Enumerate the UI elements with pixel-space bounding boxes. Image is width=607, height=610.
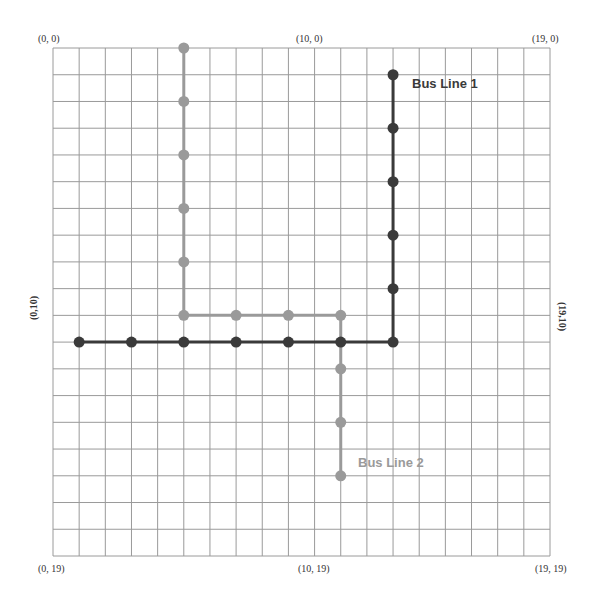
bus-stop-icon [335,470,346,481]
grid-lines [53,48,550,556]
bus-stop-icon [231,310,242,321]
bus-stop-icon [178,310,189,321]
bus-stop-icon [126,337,137,348]
bus-stop-icon [388,230,399,241]
bus-stop-icon [388,337,399,348]
bus-route-diagram: (0, 0) (10, 0) (19, 0) (0, 19) (10, 19) … [0,0,607,610]
bus-stop-icon [178,337,189,348]
bus-stop-icon [74,337,85,348]
label-bottom-middle: (10, 19) [298,563,330,574]
bus-stop-icon [231,337,242,348]
bus-stop-icon [178,43,189,54]
bus-stop-icon [388,176,399,187]
bus-stop-icon [283,337,294,348]
bus-stop-icon [335,363,346,374]
bus-stop-icon [178,149,189,160]
bus-stop-icon [178,96,189,107]
label-top-right: (19, 0) [532,33,559,44]
bus-stop-icon [388,283,399,294]
label-top-left: (0, 0) [38,33,60,44]
grid-canvas [0,0,607,610]
bus-stop-icon [178,203,189,214]
bus-stop-icon [335,337,346,348]
bus-stop-icon [388,123,399,134]
bus-stop-icon [283,310,294,321]
label-bottom-left: (0, 19) [38,563,65,574]
bus-stop-icon [335,417,346,428]
label-top-middle: (10, 0) [296,33,323,44]
label-right-middle: (19,10) [557,302,568,331]
label-left-middle: (0,10) [28,296,39,320]
bus-line-2-label: Bus Line 2 [358,455,424,470]
bus-stop-icon [178,256,189,267]
bus-stop-icon [335,310,346,321]
bus-line-1-label: Bus Line 1 [412,76,478,91]
label-bottom-right: (19, 19) [535,563,567,574]
bus-stop-icon [388,69,399,80]
